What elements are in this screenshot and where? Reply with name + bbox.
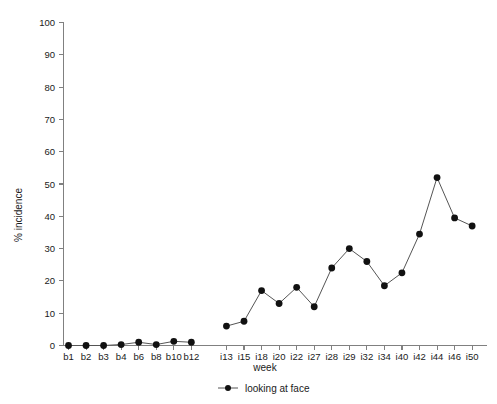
x-tick-label: i34 <box>378 351 391 362</box>
legend: looking at face <box>218 383 310 394</box>
x-tick-label: i32 <box>361 351 374 362</box>
legend-marker-icon <box>225 385 231 391</box>
x-axis-title: week <box>252 362 277 373</box>
data-point-marker <box>328 265 335 272</box>
data-point-marker <box>434 174 441 181</box>
x-tick-label: i44 <box>431 351 444 362</box>
x-tick-label: i15 <box>238 351 251 362</box>
legend-label: looking at face <box>245 383 310 394</box>
data-point-marker <box>170 338 177 345</box>
data-point-marker <box>399 269 406 276</box>
plot-area: 100 90 80 70 60 50 40 30 20 10 0 % incid… <box>0 0 497 404</box>
data-point-marker <box>100 342 107 349</box>
x-tick-label: b8 <box>151 351 162 362</box>
data-point-marker <box>276 300 283 307</box>
y-tick-label: 40 <box>44 211 55 222</box>
x-tick-label: i50 <box>466 351 479 362</box>
x-tick-label: i46 <box>448 351 461 362</box>
y-tick-label: 20 <box>44 275 55 286</box>
y-tick-label: 60 <box>44 146 55 157</box>
data-point-marker <box>416 231 423 238</box>
y-tick-label: 10 <box>44 308 55 319</box>
series-marker-group <box>65 174 475 349</box>
x-tick-label: i28 <box>325 351 338 362</box>
data-point-marker <box>118 341 125 348</box>
y-axis-title: % incidence <box>13 188 24 242</box>
chart-page: 100 90 80 70 60 50 40 30 20 10 0 % incid… <box>0 0 497 404</box>
y-tick-label: 90 <box>44 49 55 60</box>
data-point-marker <box>451 215 458 222</box>
x-tick-label: i18 <box>255 351 268 362</box>
x-tick-label: i22 <box>290 351 303 362</box>
y-tick-label: 0 <box>50 340 55 351</box>
y-axis-tick-labels: 100 90 80 70 60 50 40 30 20 10 0 <box>39 17 55 351</box>
y-tick-label: 30 <box>44 243 55 254</box>
data-point-marker <box>469 223 476 230</box>
data-point-marker <box>83 342 90 349</box>
data-point-marker <box>346 245 353 252</box>
x-tick-label: i20 <box>273 351 286 362</box>
x-tick-label: b3 <box>98 351 109 362</box>
x-tick-label: i29 <box>343 351 356 362</box>
data-point-marker <box>65 342 72 349</box>
data-point-marker <box>381 282 388 289</box>
x-tick-label: i13 <box>220 351 233 362</box>
x-tick-label: b1 <box>63 351 74 362</box>
y-tick-label: 80 <box>44 82 55 93</box>
data-point-marker <box>258 287 265 294</box>
data-point-marker <box>311 303 318 310</box>
x-tick-label: b12 <box>183 351 199 362</box>
x-tick-label: i40 <box>396 351 409 362</box>
y-axis-ticks <box>59 23 64 346</box>
x-tick-label: b4 <box>116 351 127 362</box>
x-tick-label: b2 <box>81 351 92 362</box>
data-point-marker <box>241 318 248 325</box>
data-point-marker <box>153 341 160 348</box>
y-tick-label: 70 <box>44 114 55 125</box>
data-point-marker <box>363 258 370 265</box>
y-tick-label: 50 <box>44 179 55 190</box>
data-point-marker <box>223 323 230 330</box>
data-point-marker <box>188 339 195 346</box>
x-tick-label: b6 <box>133 351 144 362</box>
x-axis-ticks <box>69 346 473 351</box>
x-tick-label: i42 <box>413 351 426 362</box>
x-axis-tick-labels: b1b2b3b4b6b8b10b12i13i15i18i20i22i27i28i… <box>63 351 478 362</box>
data-point-marker <box>135 339 142 346</box>
x-tick-label: i27 <box>308 351 321 362</box>
x-tick-label: b10 <box>166 351 182 362</box>
line-chart: 100 90 80 70 60 50 40 30 20 10 0 % incid… <box>0 0 497 404</box>
data-point-marker <box>293 284 300 291</box>
y-tick-label: 100 <box>39 17 55 28</box>
series-line-group <box>69 178 473 346</box>
